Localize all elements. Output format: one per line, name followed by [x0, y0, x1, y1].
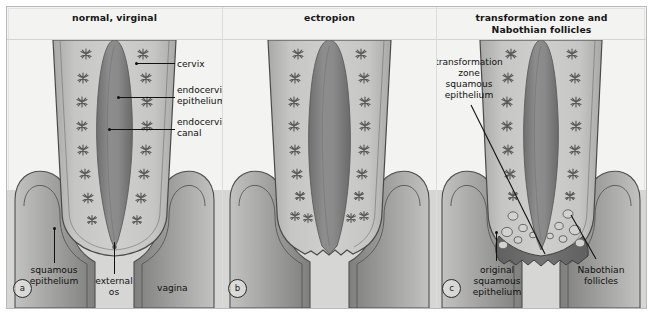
leader-external-os [114, 242, 115, 274]
panel-a: normal, virginal [7, 7, 222, 308]
panel-b-artwork [223, 40, 436, 308]
panel-b: ectropion [223, 7, 436, 308]
label-squamous-epithelium-line2: epithelium [23, 276, 85, 287]
leader-dot-endocervical-canal [108, 128, 111, 131]
label-endocervical-epithelium-line2: epithelium [177, 96, 222, 107]
label-endocervical-canal-line1: endocervical [177, 117, 222, 128]
panel-letter-a: a [13, 279, 32, 298]
leader-squamous-epithelium [54, 229, 55, 263]
label-endocervical-epithelium-line1: endocervical [177, 85, 222, 96]
panel-letter-b: b [228, 279, 247, 298]
leader-dot-squamous-epithelium [53, 227, 56, 230]
panel-c: transformation zone and Nabothian follic… [437, 7, 646, 308]
leader-endocervical-canal [110, 129, 175, 130]
panel-letter-c: c [442, 279, 461, 298]
leader-nabothian-follicles [437, 7, 646, 308]
leader-endocervical-epithelium [119, 97, 175, 98]
leader-dot-endocervical-epithelium [117, 96, 120, 99]
label-cervix: cervix [177, 59, 205, 70]
panel-a-title: normal, virginal [7, 12, 222, 24]
leader-dot-cervix [135, 62, 138, 65]
cervix-diagram-figure: normal, virginal [0, 0, 653, 322]
leader-cervix [137, 63, 175, 64]
label-external-os-line2: os [85, 287, 143, 298]
label-endocervical-canal-line2: canal [177, 128, 201, 139]
label-vagina: vagina [157, 283, 188, 294]
label-squamous-epithelium-line1: squamous [23, 265, 85, 276]
label-external-os-line1: external [85, 276, 143, 287]
panel-b-title: ectropion [223, 12, 436, 24]
